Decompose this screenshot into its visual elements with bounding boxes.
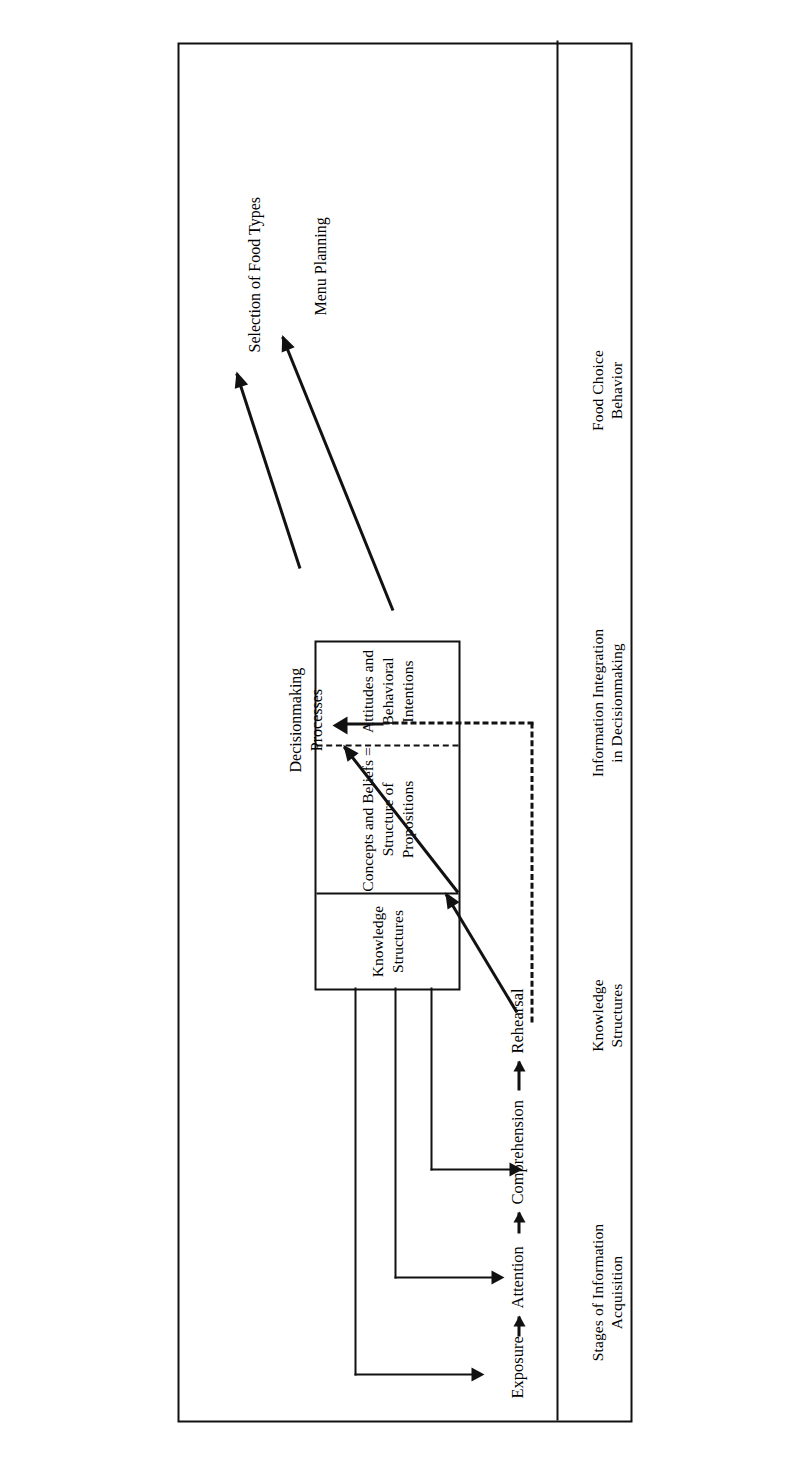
column-header-behavior: Food Choice Behavior: [587, 291, 626, 491]
column-header-knowledge-line1: Knowledge: [587, 911, 607, 1121]
column-header-behavior-line1: Food Choice: [587, 291, 607, 491]
feedback-arrow-shaft: [343, 723, 383, 726]
column-header-integration: Information Integration in Decisionmakin…: [587, 586, 626, 821]
arrow-attention-to-comprehension: [517, 1213, 520, 1234]
knowledge-structures-box: Knowledge Structures Concepts and Belief…: [314, 641, 460, 991]
figure-rotation-stage: Stages of Information Acquisition Knowle…: [177, 43, 632, 1423]
column-header-integration-line2: in Decisionmaking: [606, 586, 626, 821]
column-header-strip: Stages of Information Acquisition Knowle…: [556, 41, 630, 1421]
column-header-stages-line2: Acquisition: [606, 1173, 626, 1413]
ks-structures-line1: Knowledge: [367, 906, 387, 977]
stage-attention: Attention: [508, 1246, 526, 1308]
arrow-exposure-to-attention: [517, 1317, 520, 1337]
column-header-behavior-line2: Behavior: [606, 291, 626, 491]
feedback-arrow-head: [332, 717, 347, 735]
ks-structures-line2: Structures: [387, 906, 407, 977]
figure-frame: Stages of Information Acquisition Knowle…: [177, 43, 632, 1423]
arrow-decisionmaking-to-menu-planning: [281, 336, 394, 611]
arrow-comprehension-to-rehearsal: [517, 1062, 520, 1091]
ks-section-structures: Knowledge Structures: [316, 893, 458, 989]
stage-exposure: Exposure: [508, 1336, 526, 1398]
stage-comprehension: Comprehension: [508, 1100, 526, 1205]
ks-attitudes-line2: Behavioral Intentions: [377, 639, 417, 745]
decisionmaking-line1: Decisionmaking: [285, 668, 305, 773]
output-selection-of-food-types: Selection of Food Types: [244, 197, 264, 352]
column-header-stages: Stages of Information Acquisition: [587, 1173, 626, 1413]
arrow-decisionmaking-to-selection-of-food-types: [235, 373, 301, 569]
feedback-dashed-vertical: [383, 722, 533, 725]
ks-concepts-line2: Structure of Propositions: [377, 747, 417, 893]
column-header-stages-line1: Stages of Information: [587, 1173, 607, 1413]
column-header-knowledge: Knowledge Structures: [587, 911, 626, 1121]
ks-attitudes-line1: Attitudes and: [357, 639, 377, 745]
column-header-integration-line1: Information Integration: [587, 586, 607, 821]
node-decisionmaking-processes: Decisionmaking Processes: [285, 668, 326, 773]
column-header-knowledge-line2: Structures: [606, 911, 626, 1121]
output-menu-planning: Menu Planning: [310, 217, 330, 315]
connector-knowledge-to-comprehension: [392, 988, 494, 1171]
ks-section-concepts: Concepts and Beliefs = Structure of Prop…: [316, 745, 458, 893]
decisionmaking-line2: Processes: [306, 668, 326, 773]
feedback-dashed-horizontal: [530, 723, 533, 1023]
